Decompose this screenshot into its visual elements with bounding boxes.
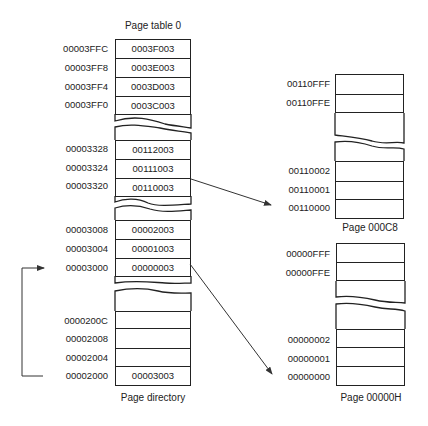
break-section — [335, 141, 404, 161]
break-section — [115, 206, 191, 220]
break-section — [115, 114, 191, 128]
pointer-arrow — [190, 264, 272, 374]
bracket-arrow — [22, 268, 44, 376]
break-section — [115, 125, 191, 140]
break-section — [336, 303, 405, 329]
break-section — [115, 196, 191, 205]
break-section — [336, 281, 405, 303]
break-section — [335, 113, 404, 143]
break-section — [115, 276, 191, 283]
pointer-arrow — [191, 179, 271, 205]
diagram-lines — [0, 0, 428, 426]
break-section — [115, 289, 191, 311]
